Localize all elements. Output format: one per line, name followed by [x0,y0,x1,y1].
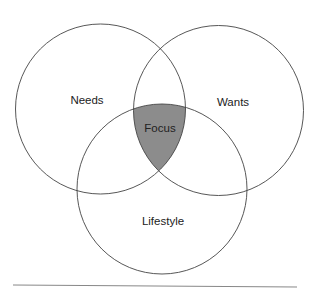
focus-label: Focus [144,122,176,134]
needs-label: Needs [70,94,103,106]
bottom-rule [13,285,297,287]
wants-label: Wants [217,96,249,108]
lifestyle-label: Lifestyle [142,215,184,227]
venn-diagram: Needs Wants Focus Lifestyle [0,0,313,289]
